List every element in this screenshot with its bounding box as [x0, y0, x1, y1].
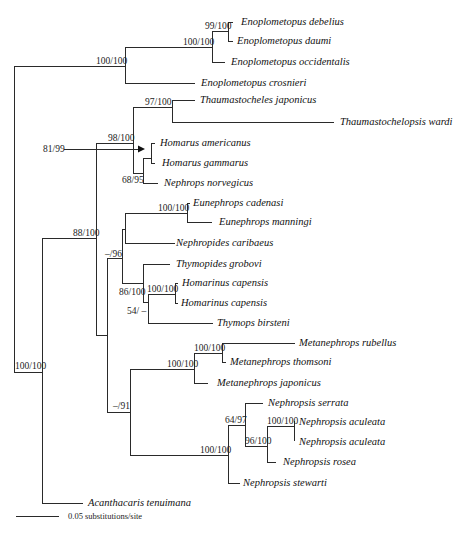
taxon-label: Homarus gammarus — [162, 157, 248, 169]
taxon-label: Metanephrops thomsoni — [230, 356, 331, 368]
support-value: 100/100 — [267, 416, 298, 427]
support-value: 100/100 — [183, 37, 214, 48]
taxon-label: Nephropsis rosea — [283, 456, 356, 468]
taxon-label: Metanephrops japonicus — [217, 377, 321, 389]
taxon-label: Metanephrops rubellus — [299, 337, 396, 349]
branch-ingroup — [42, 238, 96, 503]
taxon-label: Enoplometopus crosnieri — [201, 77, 306, 89]
taxon-label: Nephropsis serrata — [268, 397, 348, 409]
taxon-label: Nephropsis stewarti — [243, 477, 327, 489]
taxon-label: Nephropsis aculeata — [299, 436, 385, 448]
support-value: 100/100 — [200, 445, 231, 456]
support-value: 100/100 — [96, 56, 127, 67]
support-value: 86/100 — [119, 287, 145, 298]
taxon-label: Enoplometopus daumi — [237, 35, 331, 47]
taxon-label: Enoplometopus debelius — [241, 16, 344, 28]
taxon-label: Thymops birsteni — [217, 317, 290, 329]
support-value: 68/95 — [122, 175, 144, 186]
support-value: 88/100 — [73, 228, 99, 239]
taxon-label: Thaumastocheles japonicus — [200, 94, 316, 106]
taxon-label: Eunephrops manningi — [219, 216, 312, 228]
support-value: 100/100 — [147, 284, 178, 295]
support-value: 81/99 — [43, 144, 65, 155]
arrow-head-icon — [138, 146, 145, 153]
support-value: 100/100 — [15, 361, 46, 372]
taxon-label: Eunephrops cadenasi — [193, 197, 283, 209]
support-value: 100/100 — [158, 203, 189, 214]
taxon-label: Homarinus capensis — [181, 297, 267, 309]
taxon-label: Thaumastochelopsis wardi — [340, 116, 453, 128]
taxon-label: Enoplometopus occidentalis — [231, 56, 350, 68]
branch-meta-nephropsis — [130, 369, 228, 455]
support-value: 64/97 — [225, 415, 247, 426]
taxon-label: Acanthacaris tenuimana — [88, 497, 191, 509]
support-value: 99/100 — [205, 21, 231, 32]
support-value: 54/ – — [127, 306, 146, 317]
taxon-label: Homarus americanus — [160, 137, 251, 149]
taxon-label: Thymopides grobovi — [176, 258, 262, 270]
support-value: 100/100 — [167, 359, 198, 370]
support-value: 100/100 — [194, 343, 225, 354]
taxon-label: Homarinus capensis — [182, 277, 268, 289]
branch-root — [14, 66, 125, 372]
support-value: 98/100 — [108, 133, 134, 144]
scale-bar-label: 0.05 substitutions/site — [68, 511, 142, 521]
branch-lower-clade — [107, 258, 130, 412]
taxon-label: Nephropides caribaeus — [176, 237, 273, 249]
support-value: 96/100 — [245, 436, 271, 447]
taxon-label: Nephropsis aculeata — [299, 416, 385, 428]
support-value: 97/100 — [145, 97, 171, 108]
taxon-label: Nephrops norvegicus — [164, 177, 253, 189]
support-value: –/96 — [105, 249, 122, 260]
support-value: –/91 — [113, 401, 130, 412]
